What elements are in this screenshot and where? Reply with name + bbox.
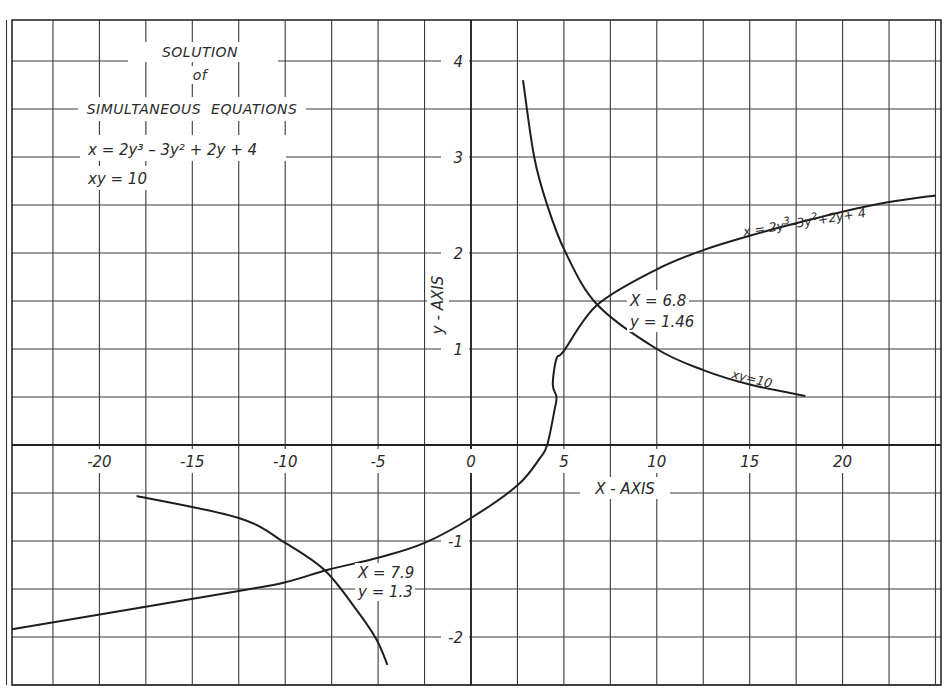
y-tick-label: 2 [453,245,463,263]
y-tick-label: 3 [453,149,463,167]
annotation-2-y: y = 1.3 [357,583,413,601]
chart-title-line-3: SIMULTANEOUS EQUATIONS [87,101,298,117]
equation-cubic: x = 2y³ – 3y² + 2y + 4 [87,141,257,159]
annotation-intersection-2: X = 7.9 y = 1.3 [355,563,415,601]
annotation-1-y: y = 1.46 [629,313,694,331]
x-tick-label: 15 [740,453,759,471]
x-tick-label: -20 [87,453,112,471]
chart-title-line-2: of [193,67,209,83]
annotation-intersection-1: X = 6.8 y = 1.46 [627,290,694,332]
chart-canvas: -20-15-10-5051015204321-1-2 SOLUTION of … [0,0,945,700]
x-tick-label: 5 [559,453,569,471]
x-axis-title: X - AXIS [594,480,655,498]
y-tick-label: 4 [453,53,463,71]
x-tick-label: 0 [466,453,476,471]
annotation-2-x: X = 7.9 [357,564,414,582]
annotation-1-x: X = 6.8 [629,292,686,310]
y-tick-label: -2 [448,629,463,647]
x-tick-label: -10 [273,453,298,471]
x-tick-label: 20 [833,453,852,471]
y-axis-title: y - AXIS [429,275,447,335]
y-tick-label: 1 [453,341,463,359]
x-tick-label: -15 [180,453,205,471]
curve-hyperbola-branch-2 [137,496,388,665]
y-tick-label: -1 [448,533,463,551]
curve-label-cubic: x = 2y3–3y2+2y+ 4 [741,203,867,239]
equation-hyperbola: xy = 10 [87,170,147,188]
chart-title-line-1: SOLUTION [162,44,238,60]
curve-cubic [12,195,935,629]
x-tick-label: -5 [371,453,386,471]
x-tick-label: 10 [647,453,666,471]
curve-label-hyperbola: xy=10 [729,366,774,391]
